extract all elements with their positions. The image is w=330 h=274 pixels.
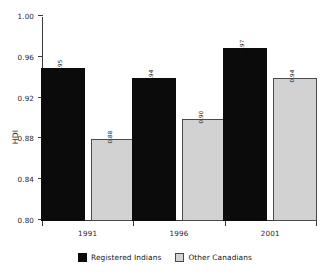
bar-value-label: 0.90 bbox=[198, 111, 204, 124]
chart-legend: Registered IndiansOther Canadians bbox=[0, 253, 330, 262]
x-axis-tick bbox=[316, 221, 317, 226]
bar-1991-registered-indians: 0.95 bbox=[41, 68, 85, 221]
bar-2001-other-canadians: 0.94 bbox=[273, 78, 317, 221]
y-axis-tick-label: 1.00 bbox=[18, 12, 34, 21]
y-axis-tick-label: 0.84 bbox=[18, 175, 34, 184]
x-axis-label-2001: 2001 bbox=[261, 229, 280, 238]
bar-value-label: 0.88 bbox=[107, 131, 113, 144]
legend-swatch-icon bbox=[78, 253, 87, 262]
bar-1996-other-canadians: 0.90 bbox=[182, 119, 226, 221]
legend-label: Other Canadians bbox=[188, 253, 252, 262]
x-axis: 199119962001 bbox=[42, 221, 316, 241]
bar-value-label: 0.97 bbox=[239, 39, 245, 52]
y-axis-tick: 1.00 bbox=[38, 15, 43, 16]
legend-item-other-canadians[interactable]: Other Canadians bbox=[175, 253, 252, 262]
y-axis-tick-label: 0.88 bbox=[18, 134, 34, 143]
y-axis-tick-label: 0.92 bbox=[18, 93, 34, 102]
y-axis-tick-label: 0.80 bbox=[18, 216, 34, 225]
bar-1996-registered-indians: 0.94 bbox=[132, 78, 176, 221]
bar-1991-other-canadians: 0.88 bbox=[91, 139, 135, 221]
bar-value-label: 0.95 bbox=[57, 60, 63, 73]
legend-label: Registered Indians bbox=[91, 253, 161, 262]
x-axis-label-1991: 1991 bbox=[78, 229, 97, 238]
legend-item-registered-indians[interactable]: Registered Indians bbox=[78, 253, 161, 262]
bar-value-label: 0.94 bbox=[148, 70, 154, 83]
x-axis-tick bbox=[225, 221, 226, 226]
y-axis-tick-label: 0.96 bbox=[18, 52, 34, 61]
hdi-bar-chart: HDI 0.800.840.880.920.961.00 0.950.880.9… bbox=[0, 0, 330, 274]
x-axis-tick bbox=[42, 221, 43, 226]
bars-layer: 0.950.880.940.900.970.94 bbox=[42, 17, 316, 221]
x-axis-tick bbox=[133, 221, 134, 226]
x-axis-label-1996: 1996 bbox=[169, 229, 188, 238]
bar-value-label: 0.94 bbox=[289, 70, 295, 83]
bar-2001-registered-indians: 0.97 bbox=[223, 48, 267, 221]
legend-swatch-icon bbox=[175, 253, 184, 262]
